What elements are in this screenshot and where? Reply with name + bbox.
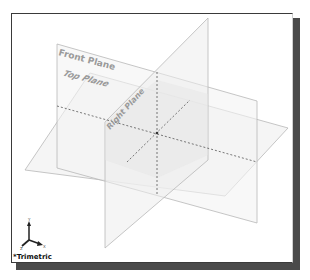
view-orientation-label: *Trimetric xyxy=(13,253,52,261)
graphics-viewport[interactable]: Front Plane Top Plane Right Plane Y X Z … xyxy=(11,13,293,263)
planes-canvas: Front Plane Top Plane Right Plane Y X Z xyxy=(11,13,293,263)
frame-shadow-right xyxy=(292,18,300,270)
z-axis-label: Z xyxy=(20,246,23,251)
origin-point xyxy=(156,132,159,135)
z-axis-icon xyxy=(22,240,29,246)
x-axis-label: X xyxy=(43,244,46,249)
y-axis-label: Y xyxy=(27,217,31,222)
axis-triad: Y X Z xyxy=(20,217,46,251)
frame-shadow-bottom xyxy=(16,262,300,270)
